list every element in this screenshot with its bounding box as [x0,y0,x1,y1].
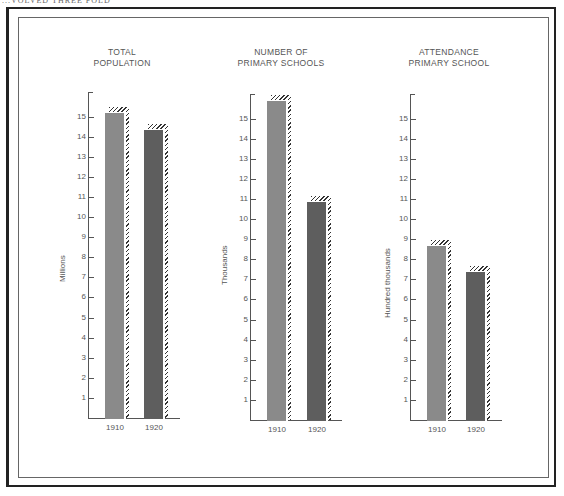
y-tick [411,360,416,361]
x-axis [250,420,342,421]
y-tick-label: 14 [234,135,248,143]
y-axis-top-cap [88,92,93,93]
y-tick [89,257,94,258]
y-tick-label: 2 [234,376,248,384]
y-tick [89,197,94,198]
y-tick-label: 6 [394,295,408,303]
y-tick [89,277,94,278]
chart-title-line: NUMBER OF [221,47,341,58]
y-tick-label: 15 [234,115,248,123]
y-tick-label: 7 [394,275,408,283]
y-tick-label: 5 [234,316,248,324]
y-tick [251,199,256,200]
y-tick-label: 2 [394,376,408,384]
y-axis [88,92,89,418]
y-tick-label: 13 [72,153,86,161]
y-tick-label: 11 [72,193,86,201]
y-tick [411,380,416,381]
y-tick [251,239,256,240]
y-tick [411,199,416,200]
x-tick-label: 1910 [422,425,452,434]
bar-1920 [466,271,487,421]
y-tick [89,358,94,359]
chart-title-line: PRIMARY SCHOOLS [221,58,341,69]
y-tick [89,217,94,218]
y-tick-label: 10 [234,215,248,223]
x-tick-label: 1920 [461,425,491,434]
y-tick [251,340,256,341]
chart-title-line: TOTAL [62,47,182,58]
y-tick-label: 3 [234,356,248,364]
y-tick-label: 1 [394,396,408,404]
y-tick-label: 15 [72,113,86,121]
x-tick-label: 1920 [139,423,169,432]
y-tick [251,159,256,160]
bar-1910 [267,100,288,421]
chart-title-line: PRIMARY SCHOOL [389,58,509,69]
y-tick [411,340,416,341]
x-axis [88,418,180,419]
y-tick [411,239,416,240]
y-tick [89,177,94,178]
y-tick-label: 13 [234,155,248,163]
y-axis-label: Thousands [220,245,229,285]
y-tick [89,157,94,158]
y-tick-label: 13 [394,155,408,163]
page-header-text: ...VOLVED THREE FOLD [2,0,111,5]
y-tick [89,137,94,138]
y-tick [251,320,256,321]
y-tick-label: 1 [72,394,86,402]
y-tick [89,297,94,298]
bar-1920 [307,201,328,421]
y-tick [411,119,416,120]
y-tick [411,320,416,321]
y-tick [411,219,416,220]
y-tick-label: 3 [394,356,408,364]
y-axis-top-cap [410,94,415,95]
y-tick [411,400,416,401]
y-tick [411,179,416,180]
y-tick [411,259,416,260]
y-tick [89,117,94,118]
y-tick-label: 8 [234,255,248,263]
y-tick-label: 1 [234,396,248,404]
y-axis-label: Millions [58,255,67,282]
y-tick-label: 5 [72,314,86,322]
y-tick [89,237,94,238]
chart-title-line: ATTENDANCE [389,47,509,58]
y-tick [89,338,94,339]
y-tick-label: 2 [72,374,86,382]
y-axis [410,94,411,420]
y-tick [251,279,256,280]
bar-1910 [105,112,126,419]
y-tick-label: 4 [72,334,86,342]
y-tick [89,378,94,379]
y-tick [251,299,256,300]
y-tick [251,139,256,140]
y-tick [411,139,416,140]
y-tick-label: 12 [234,175,248,183]
y-tick [251,219,256,220]
chart-title: ATTENDANCEPRIMARY SCHOOL [389,47,509,69]
y-tick-label: 10 [394,215,408,223]
y-tick [411,279,416,280]
y-tick [251,179,256,180]
y-tick-label: 6 [72,293,86,301]
y-tick-label: 15 [394,115,408,123]
y-tick-label: 9 [234,235,248,243]
y-tick-label: 8 [394,255,408,263]
y-tick-label: 14 [72,133,86,141]
y-tick [411,299,416,300]
bar-1920 [144,129,165,419]
chart-title: TOTALPOPULATION [62,47,182,69]
x-axis [410,420,502,421]
y-tick-label: 10 [72,213,86,221]
chart-title-line: POPULATION [62,58,182,69]
y-tick-label: 3 [72,354,86,362]
y-tick [251,400,256,401]
y-tick [89,398,94,399]
x-tick-label: 1920 [302,425,332,434]
bar-1910 [427,245,448,421]
y-tick-label: 14 [394,135,408,143]
y-tick [251,360,256,361]
